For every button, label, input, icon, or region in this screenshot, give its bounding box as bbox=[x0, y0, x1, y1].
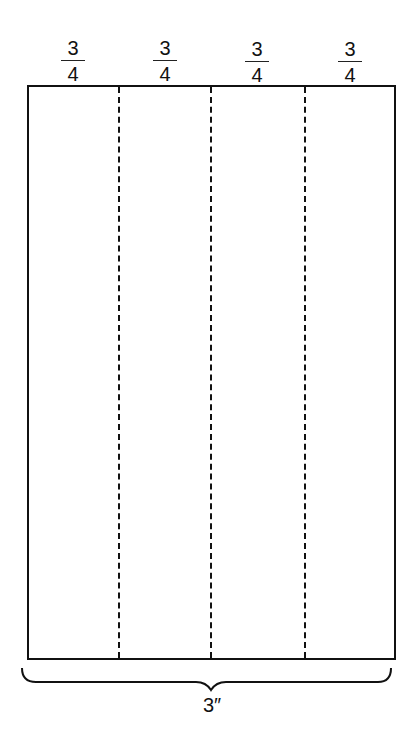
curly-brace-icon bbox=[0, 0, 413, 739]
total-width-label: 3″ bbox=[192, 694, 232, 717]
